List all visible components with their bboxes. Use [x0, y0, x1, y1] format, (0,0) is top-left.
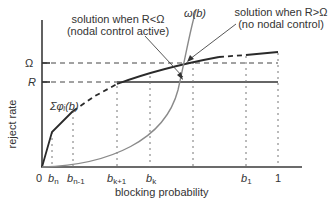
- annotation-right-line2: (no nodal control): [226, 18, 333, 30]
- y-tick-r: R: [28, 76, 36, 88]
- left-annotation-arrow: [145, 36, 183, 77]
- annotation-right-line1: solution when R>Ω: [226, 6, 333, 18]
- y-axis-label: reject rate: [6, 100, 18, 149]
- sum-phi-curve-label: Σφᵢ(b): [50, 100, 79, 112]
- annotation-left-line2: (nodal control active): [58, 25, 178, 37]
- sum-phi-curve-dashed: [73, 84, 117, 111]
- omega-curve-label: ω(b): [184, 7, 206, 19]
- annotation-no-nodal: solution when R>Ω (no nodal control): [226, 6, 333, 30]
- x-tick-0: 0: [36, 172, 42, 184]
- sum-phi-curve-low: [42, 111, 73, 167]
- right-arrowhead: [187, 55, 194, 62]
- vertical-guides: [52, 53, 278, 167]
- sum-phi-curve-top: [246, 52, 278, 55]
- y-tick-omega: Ω: [25, 57, 33, 69]
- annotation-left-line1: solution when R<Ω: [58, 13, 178, 25]
- x-axis-label: blocking probability: [115, 186, 209, 198]
- x-tick-b1: b1: [241, 172, 252, 188]
- sum-phi-curve-dashed-upper: [219, 55, 246, 57]
- x-tick-bn-1: bn-1: [67, 172, 85, 188]
- x-tick-1: 1: [275, 172, 281, 184]
- x-tick-bn: bn: [48, 172, 59, 188]
- annotation-nodal-active: solution when R<Ω (nodal control active): [58, 13, 178, 37]
